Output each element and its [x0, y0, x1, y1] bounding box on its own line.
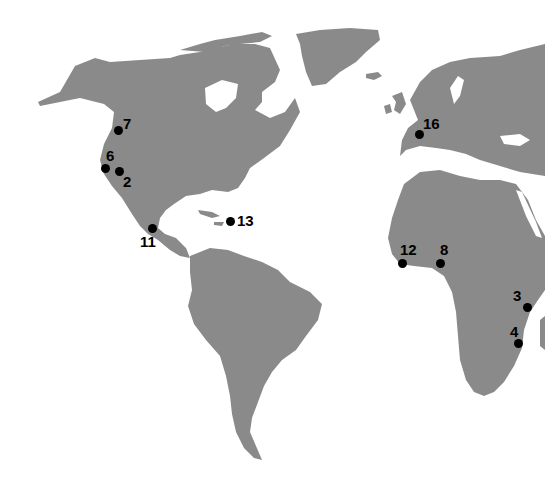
marker-label: 12	[400, 242, 417, 257]
british-isles	[384, 92, 406, 114]
marker-label: 3	[513, 288, 521, 303]
caribbean-islands	[198, 210, 224, 226]
north-america	[38, 44, 300, 258]
europe	[400, 44, 545, 176]
marker-label: 6	[106, 148, 114, 163]
world-map	[0, 0, 545, 486]
marker-dot-icon[interactable]	[148, 224, 157, 233]
iceland	[366, 72, 382, 80]
marker-dot-icon[interactable]	[101, 164, 110, 173]
marker-dot-icon[interactable]	[436, 259, 445, 268]
marker-dot-icon[interactable]	[226, 217, 235, 226]
marker-dot-icon[interactable]	[398, 259, 407, 268]
marker-label: 16	[423, 116, 440, 131]
marker-label: 8	[440, 242, 448, 257]
madagascar	[540, 316, 545, 350]
landmass	[38, 28, 545, 460]
marker-dot-icon[interactable]	[114, 126, 123, 135]
marker-label: 11	[140, 234, 156, 249]
marker-label: 13	[237, 213, 254, 228]
marker-dot-icon[interactable]	[523, 303, 532, 312]
marker-label: 7	[123, 116, 131, 131]
marker-label: 2	[123, 174, 131, 189]
marker-label: 4	[510, 324, 518, 339]
south-america	[188, 248, 322, 460]
